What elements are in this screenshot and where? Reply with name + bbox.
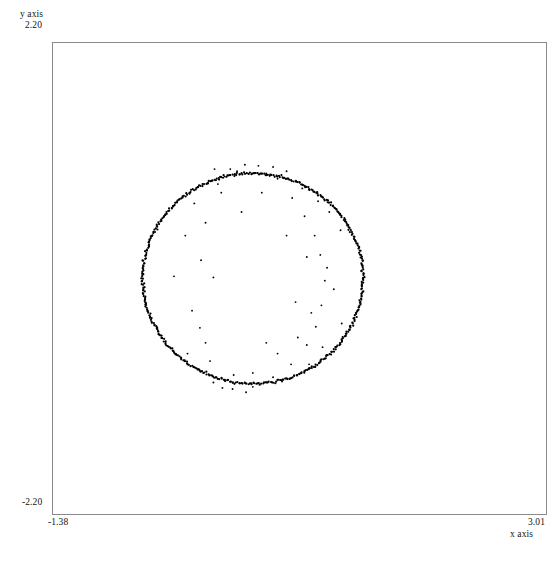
data-point xyxy=(160,335,162,337)
data-point xyxy=(218,178,220,180)
data-point xyxy=(361,287,363,289)
data-point xyxy=(205,373,207,375)
data-point xyxy=(218,378,220,380)
data-point xyxy=(186,194,188,196)
data-point xyxy=(360,262,362,264)
data-point xyxy=(336,210,338,212)
data-point xyxy=(347,331,349,333)
data-point xyxy=(171,207,173,209)
data-point xyxy=(260,383,262,385)
data-point xyxy=(363,276,365,278)
data-point xyxy=(333,351,335,353)
data-point xyxy=(351,321,353,323)
data-point xyxy=(356,316,358,318)
data-point xyxy=(320,358,322,360)
data-point xyxy=(327,354,329,356)
data-point xyxy=(331,351,333,353)
data-point xyxy=(151,322,153,324)
data-point xyxy=(349,325,351,327)
data-point xyxy=(250,383,252,385)
data-point xyxy=(212,276,214,278)
data-point xyxy=(200,259,202,261)
data-point xyxy=(220,192,222,194)
data-point xyxy=(362,272,364,274)
data-point xyxy=(199,327,201,329)
data-point xyxy=(290,363,292,365)
data-point xyxy=(205,183,207,185)
data-point xyxy=(275,381,277,383)
data-point xyxy=(250,173,252,175)
data-point xyxy=(152,232,154,234)
data-point xyxy=(343,217,345,219)
data-point xyxy=(361,281,363,283)
data-point xyxy=(229,168,231,170)
data-point xyxy=(314,235,316,237)
data-point xyxy=(227,379,229,381)
data-point xyxy=(282,379,284,381)
data-point xyxy=(326,199,328,201)
data-point xyxy=(352,325,354,327)
data-point xyxy=(144,258,146,260)
data-point xyxy=(163,338,165,340)
data-point xyxy=(342,336,344,338)
data-point xyxy=(143,262,145,264)
data-point xyxy=(339,342,341,344)
data-point xyxy=(300,183,302,185)
data-point xyxy=(141,275,143,277)
scatter-plot-figure: y axis 2.20 -2.20 -1.38 3.01 x axis xyxy=(0,0,559,568)
data-point xyxy=(263,173,265,175)
data-point xyxy=(156,228,158,230)
data-point xyxy=(209,360,211,362)
data-point xyxy=(257,172,259,174)
data-point xyxy=(316,364,318,366)
data-point xyxy=(156,328,158,330)
data-point xyxy=(330,201,332,203)
data-point xyxy=(245,382,247,384)
data-point xyxy=(174,202,176,204)
data-point xyxy=(243,171,245,173)
data-point xyxy=(272,376,274,378)
data-point xyxy=(301,371,303,373)
data-point xyxy=(353,235,355,237)
data-point xyxy=(184,360,186,362)
data-point xyxy=(327,201,329,203)
data-point xyxy=(362,290,364,292)
data-point xyxy=(221,377,223,379)
data-point xyxy=(188,364,190,366)
data-point xyxy=(332,204,334,206)
data-point xyxy=(236,381,238,383)
data-point xyxy=(161,337,163,339)
data-point xyxy=(281,381,283,383)
data-point xyxy=(272,174,274,176)
data-point xyxy=(322,346,324,348)
data-point xyxy=(236,172,238,174)
data-point xyxy=(197,369,199,371)
data-point xyxy=(351,231,353,233)
data-point xyxy=(241,383,243,385)
data-point xyxy=(234,173,236,175)
data-point xyxy=(158,223,160,225)
data-point xyxy=(345,335,347,337)
data-point xyxy=(321,304,323,306)
data-point xyxy=(353,238,355,240)
data-point xyxy=(201,185,203,187)
data-point xyxy=(233,374,235,376)
data-point xyxy=(252,372,254,374)
data-point xyxy=(217,183,219,185)
data-point xyxy=(301,187,303,189)
data-point xyxy=(286,235,288,237)
data-point xyxy=(253,382,255,384)
data-point xyxy=(341,323,343,325)
data-point xyxy=(201,370,203,372)
data-point xyxy=(269,175,271,177)
data-point xyxy=(214,179,216,181)
data-point xyxy=(232,173,234,175)
data-point xyxy=(142,260,144,262)
data-point xyxy=(319,194,321,196)
data-point xyxy=(245,391,247,393)
data-point xyxy=(146,250,148,252)
data-point xyxy=(330,204,332,206)
data-point xyxy=(311,365,313,367)
data-point xyxy=(328,211,330,213)
data-point xyxy=(324,280,326,282)
